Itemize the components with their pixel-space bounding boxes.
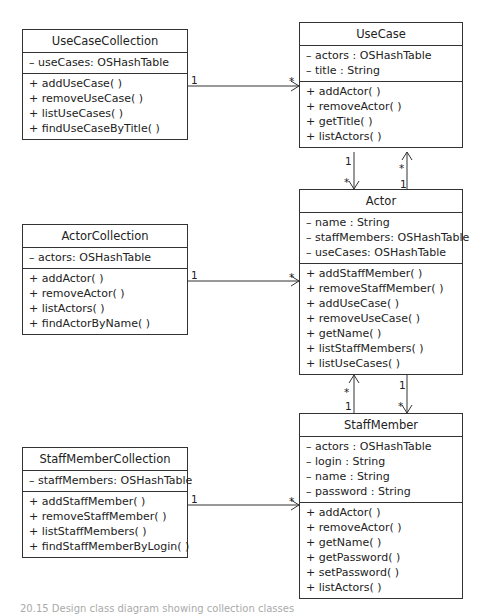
mult-usecase-many: * xyxy=(289,76,294,86)
figure-caption: 20.15 Design class diagram showing colle… xyxy=(20,603,294,614)
mult-usecase-actor-1: 1 xyxy=(345,156,352,166)
class-actor: Actor – name : String – staffMembers: OS… xyxy=(299,189,463,375)
attributes: – name : String – staffMembers: OSHashTa… xyxy=(300,213,462,264)
operation: + listActors( ) xyxy=(306,580,456,595)
attribute: – name : String xyxy=(306,469,456,484)
mult-actor-usecase-1: 1 xyxy=(400,179,407,189)
operation: + addUseCase( ) xyxy=(29,76,181,91)
operation: + removeStaffMember( ) xyxy=(29,509,181,524)
operations: + addStaffMember( ) + removeStaffMember(… xyxy=(300,264,462,374)
operations: + addActor( ) + removeActor( ) + listAct… xyxy=(23,269,187,334)
attribute: – name : String xyxy=(306,215,456,230)
operation: + listActors( ) xyxy=(306,129,456,144)
class-name: UseCase xyxy=(300,23,462,46)
operation: + removeActor( ) xyxy=(306,520,456,535)
operation: + removeActor( ) xyxy=(306,99,456,114)
mult-actor-many: * xyxy=(289,272,294,282)
attribute: – actors: OSHashTable xyxy=(29,250,181,265)
operation: + addActor( ) xyxy=(306,84,456,99)
operation: + listUseCases( ) xyxy=(306,356,456,371)
attribute: – useCases: OSHashTable xyxy=(306,245,456,260)
attribute: – staffMembers: OSHashTable xyxy=(29,473,181,488)
attributes: – useCases: OSHashTable xyxy=(23,53,187,74)
operation: + findUseCaseByTitle( ) xyxy=(29,121,181,136)
class-staffmember: StaffMember – actors : OSHashTable – log… xyxy=(299,413,463,599)
attributes: – actors : OSHashTable – title : String xyxy=(300,46,462,82)
operation: + getName( ) xyxy=(306,326,456,341)
attribute: – actors : OSHashTable xyxy=(306,48,456,63)
mult-staffmember-actor-1: 1 xyxy=(345,401,352,411)
operation: + findStaffMemberByLogin( ) xyxy=(29,539,181,554)
mult-actorcollection-1: 1 xyxy=(191,270,198,280)
class-name: StaffMember xyxy=(300,414,462,437)
class-name: StaffMemberCollection xyxy=(23,448,187,471)
operation: + removeUseCase( ) xyxy=(29,91,181,106)
operations: + addActor( ) + removeActor( ) + getTitl… xyxy=(300,82,462,147)
mult-actor-staffmember-many: * xyxy=(398,401,403,411)
class-name: Actor xyxy=(300,190,462,213)
mult-usecasecollection-1: 1 xyxy=(191,75,198,85)
attribute: – actors : OSHashTable xyxy=(306,439,456,454)
operation: + findActorByName( ) xyxy=(29,316,181,331)
class-staffmembercollection: StaffMemberCollection – staffMembers: OS… xyxy=(22,447,188,558)
operation: + setPassword( ) xyxy=(306,565,456,580)
operations: + addActor( ) + removeActor( ) + getName… xyxy=(300,503,462,598)
attributes: – actors: OSHashTable xyxy=(23,248,187,269)
operation: + getPassword( ) xyxy=(306,550,456,565)
attribute: – login : String xyxy=(306,454,456,469)
operation: + addActor( ) xyxy=(29,271,181,286)
operations: + addStaffMember( ) + removeStaffMember(… xyxy=(23,492,187,557)
operation: + removeActor( ) xyxy=(29,286,181,301)
class-usecasecollection: UseCaseCollection – useCases: OSHashTabl… xyxy=(22,29,188,140)
class-actorcollection: ActorCollection – actors: OSHashTable + … xyxy=(22,224,188,335)
operation: + getTitle( ) xyxy=(306,114,456,129)
class-name: UseCaseCollection xyxy=(23,30,187,53)
class-usecase: UseCase – actors : OSHashTable – title :… xyxy=(299,22,463,148)
attribute: – title : String xyxy=(306,63,456,78)
attributes: – actors : OSHashTable – login : String … xyxy=(300,437,462,503)
operation: + listStaffMembers( ) xyxy=(29,524,181,539)
mult-actor-staffmember-1: 1 xyxy=(399,380,406,390)
operation: + listStaffMembers( ) xyxy=(306,341,456,356)
operation: + addStaffMember( ) xyxy=(306,266,456,281)
operation: + addActor( ) xyxy=(306,505,456,520)
attribute: – staffMembers: OSHashTable xyxy=(306,230,456,245)
class-name: ActorCollection xyxy=(23,225,187,248)
operation: + removeStaffMember( ) xyxy=(306,281,456,296)
mult-staffmember-actor-many: * xyxy=(344,387,349,397)
operation: + removeUseCase( ) xyxy=(306,311,456,326)
attribute: – password : String xyxy=(306,484,456,499)
operations: + addUseCase( ) + removeUseCase( ) + lis… xyxy=(23,74,187,139)
operation: + listUseCases( ) xyxy=(29,106,181,121)
mult-staffmember-many: * xyxy=(289,496,294,506)
attributes: – staffMembers: OSHashTable xyxy=(23,471,187,492)
operation: + addUseCase( ) xyxy=(306,296,456,311)
attribute: – useCases: OSHashTable xyxy=(29,55,181,70)
operation: + addStaffMember( ) xyxy=(29,494,181,509)
operation: + getName( ) xyxy=(306,535,456,550)
mult-usecase-actor-many: * xyxy=(344,177,349,187)
mult-actor-usecase-many: * xyxy=(399,163,404,173)
operation: + listActors( ) xyxy=(29,301,181,316)
mult-staffmembercollection-1: 1 xyxy=(191,494,198,504)
